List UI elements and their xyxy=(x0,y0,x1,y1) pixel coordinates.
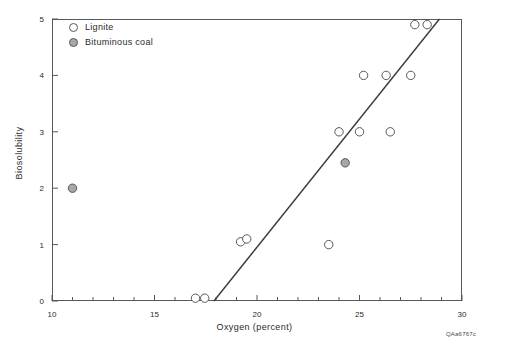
y-axis-ticks xyxy=(52,19,58,301)
data-point-bituminous-coal xyxy=(68,184,76,192)
legend-label-lignite: Lignite xyxy=(85,20,114,35)
data-point-lignite xyxy=(355,128,363,136)
data-points xyxy=(68,20,431,302)
y-axis-title: Biosolubility xyxy=(14,98,24,208)
y-tick-label: 0 xyxy=(30,297,44,306)
y-tick-label: 4 xyxy=(30,71,44,80)
data-point-lignite xyxy=(386,128,394,136)
regression-line xyxy=(214,19,440,301)
data-point-lignite xyxy=(325,240,333,248)
data-point-lignite xyxy=(191,294,199,302)
legend-item-lignite: Lignite xyxy=(66,20,153,35)
data-point-bituminous-coal xyxy=(341,159,349,167)
data-point-lignite xyxy=(201,294,209,302)
y-tick-label: 5 xyxy=(30,15,44,24)
y-tick-label: 2 xyxy=(30,184,44,193)
data-point-lignite xyxy=(411,20,419,28)
fit-line xyxy=(214,19,440,301)
data-point-lignite xyxy=(382,71,390,79)
data-point-lignite xyxy=(423,20,431,28)
data-point-lignite xyxy=(407,71,415,79)
x-tick-label: 20 xyxy=(253,310,262,319)
y-tick-label: 1 xyxy=(30,240,44,249)
y-tick-label: 3 xyxy=(30,127,44,136)
x-axis-title: Oxygen (percent) xyxy=(0,322,509,332)
figure-code: QAa6767c xyxy=(446,331,476,337)
x-tick-label: 30 xyxy=(458,310,467,319)
data-point-lignite xyxy=(243,235,251,243)
legend-item-bituminous-coal: Bituminous coal xyxy=(66,35,153,50)
x-tick-label: 25 xyxy=(355,310,364,319)
legend-label-bituminous-coal: Bituminous coal xyxy=(85,35,153,50)
data-point-lignite xyxy=(335,128,343,136)
x-tick-label: 10 xyxy=(48,310,57,319)
x-axis-ticks xyxy=(52,295,462,301)
x-tick-label: 15 xyxy=(150,310,159,319)
shaded-circle-icon xyxy=(66,37,80,48)
data-point-lignite xyxy=(359,71,367,79)
open-circle-icon xyxy=(66,22,80,33)
chart-graphics xyxy=(0,0,509,354)
chart-legend: Lignite Bituminous coal xyxy=(66,20,153,50)
chart-container: 1015202530 012345 Oxygen (percent) Bioso… xyxy=(0,0,509,354)
